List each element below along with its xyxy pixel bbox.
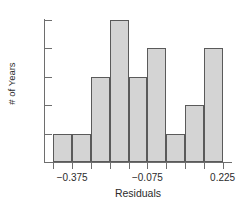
y-axis-tick <box>45 77 52 78</box>
x-axis-tick <box>185 163 186 169</box>
x-axis-tick-label: −0.375 <box>42 172 102 183</box>
x-axis-tick <box>204 163 205 169</box>
y-axis-line <box>44 19 45 163</box>
y-axis-tick <box>45 48 52 49</box>
x-axis-tick-label: −0.075 <box>117 172 177 183</box>
histogram-bar <box>204 48 223 162</box>
histogram-bar <box>91 77 110 163</box>
histogram-bar <box>166 134 185 163</box>
x-axis-tick <box>223 163 224 169</box>
x-axis-tick <box>72 163 73 169</box>
x-axis-tick <box>129 163 130 169</box>
x-axis-tick <box>166 163 167 169</box>
y-axis-tick <box>45 134 52 135</box>
histogram-bar <box>147 48 166 162</box>
x-axis-tick <box>53 163 54 169</box>
x-axis-tick-label: 0.225 <box>193 172 247 183</box>
x-axis-tick <box>91 163 92 169</box>
x-axis-title: Residuals <box>44 187 232 199</box>
histogram-bar <box>72 134 91 163</box>
histogram-bar <box>185 105 204 162</box>
histogram-bar <box>110 20 129 163</box>
histogram-figure: 12345 −0.375−0.0750.225 # of Years Resid… <box>0 0 247 209</box>
plot-area: 12345 −0.375−0.0750.225 # of Years Resid… <box>0 0 247 209</box>
y-axis-title: # of Years <box>6 49 17 119</box>
histogram-bar <box>53 134 72 163</box>
histogram-bar <box>129 77 148 163</box>
x-axis-tick <box>147 163 148 169</box>
x-axis-tick <box>110 163 111 169</box>
y-axis-tick <box>45 20 52 21</box>
y-axis-tick <box>45 105 52 106</box>
